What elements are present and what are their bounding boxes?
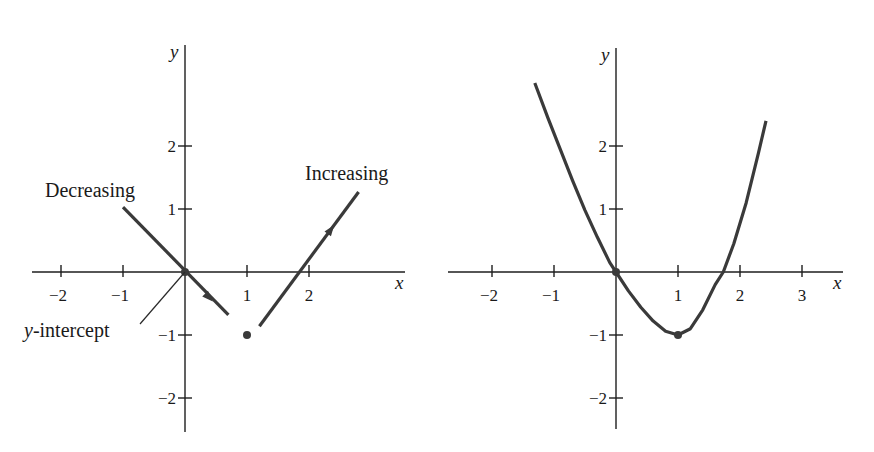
x-tick-label: 1 [243, 286, 252, 305]
y-tick-label: 1 [168, 200, 177, 219]
x-tick-label: −2 [480, 286, 498, 305]
y-intercept-label-var: y [22, 319, 33, 342]
x-axis-label: x [394, 272, 404, 293]
y-tick-label: −1 [158, 326, 176, 345]
x-tick-label: −2 [49, 286, 67, 305]
x-tick-label: 3 [798, 286, 807, 305]
x-tick-label: −1 [111, 286, 129, 305]
decreasing-segment [123, 207, 228, 315]
x-axis-label: x [832, 272, 842, 293]
y-intercept-label: y-intercept [22, 319, 110, 342]
origin-point [612, 268, 620, 276]
y-intercept-label-text: -intercept [33, 319, 110, 342]
y-intercept-leader-line [140, 272, 185, 324]
x-tick-label: −1 [542, 286, 560, 305]
minimum-point [674, 331, 682, 339]
isolated-point [243, 331, 251, 339]
x-tick-label: 2 [736, 286, 745, 305]
x-tick-label: 2 [305, 286, 314, 305]
decreasing-label: Decreasing [45, 179, 135, 202]
left-graph: xy−2−11221−1−2DecreasingIncreasingy-inte… [22, 41, 405, 432]
y-tick-label: 2 [599, 137, 608, 156]
curve [535, 83, 766, 335]
y-tick-label: −2 [589, 389, 607, 408]
y-tick-label: 1 [599, 200, 608, 219]
y-tick-label: −2 [158, 389, 176, 408]
y-tick-label: 2 [168, 137, 177, 156]
increasing-label: Increasing [305, 162, 388, 185]
y-axis-label: y [599, 44, 610, 65]
right-graph: xy−2−112321−1−2 [448, 44, 843, 429]
diagram-canvas: xy−2−11221−1−2DecreasingIncreasingy-inte… [0, 0, 874, 452]
y-axis-label: y [168, 41, 179, 62]
x-tick-label: 1 [674, 286, 683, 305]
y-tick-label: −1 [589, 326, 607, 345]
increasing-segment [259, 192, 358, 326]
